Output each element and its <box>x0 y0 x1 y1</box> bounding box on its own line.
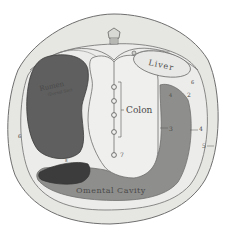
number-5: 5 <box>202 142 206 149</box>
number-4-upper: 4 <box>169 92 172 98</box>
number-7: 7 <box>120 151 124 158</box>
number-4-lower: 4 <box>199 125 203 132</box>
number-6-left: 6 <box>18 133 21 139</box>
number-6-top: 6 <box>191 79 194 85</box>
rumen-region <box>27 55 89 159</box>
colon-label: Colon <box>126 105 153 115</box>
vessel-icon <box>132 51 136 55</box>
vertebra-icon <box>108 28 120 44</box>
number-3: 3 <box>169 125 173 132</box>
omental-cavity-label: Omental Cavity <box>76 186 146 195</box>
number-2: 2 <box>187 91 191 98</box>
cross-section-diagram: Rumen (Dorsal Sac) Liver Colon Omental C… <box>0 0 228 231</box>
